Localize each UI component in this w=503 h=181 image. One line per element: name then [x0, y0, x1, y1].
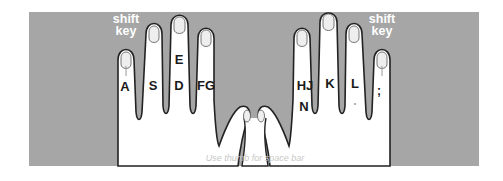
left-middle-top-key: E — [175, 53, 184, 66]
left-pinky-key: A — [120, 80, 129, 93]
left-ring-key: S — [149, 79, 158, 92]
left-shift-key-label: shift key — [113, 13, 139, 37]
right-shift-key-label: shift key — [369, 13, 395, 37]
left-ring-nail — [149, 26, 159, 43]
right-pinky-key: ; — [377, 85, 381, 97]
right-index-nail — [297, 30, 307, 47]
key-word: key — [369, 25, 395, 37]
right-ring-key: L — [351, 77, 359, 90]
left-middle-key: D — [174, 79, 183, 92]
spacebar-caption: Use thumb for space bar — [206, 153, 305, 163]
right-ring-nail — [349, 26, 359, 43]
key-word: key — [113, 25, 139, 37]
left-index-key: FG — [197, 79, 215, 92]
right-ring-dot — [354, 103, 356, 105]
typing-hands-diagram: shift key shift key A S E D FG HJ N K L … — [0, 0, 503, 181]
right-middle-nail — [323, 14, 334, 31]
right-index-key: HJ — [297, 79, 314, 92]
left-middle-nail — [174, 17, 185, 34]
left-index-nail — [201, 30, 211, 47]
left-thumb-nail — [244, 110, 251, 122]
right-thumb-nail — [258, 110, 265, 122]
right-index-bottom-key: N — [299, 100, 308, 113]
right-middle-key: K — [325, 77, 334, 90]
